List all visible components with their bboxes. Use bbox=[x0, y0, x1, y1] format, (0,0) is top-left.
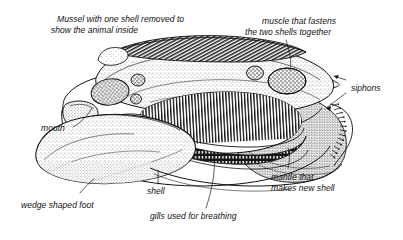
label-muscle-line-2: the two shells together bbox=[245, 27, 332, 37]
mussel-anatomy-figure: Mussel with one shell removed to show th… bbox=[0, 0, 403, 240]
label-mantle-line-2: makes new shell bbox=[271, 183, 336, 193]
diagram-canvas: Mussel with one shell removed to show th… bbox=[0, 0, 403, 240]
caption-line-2: show the animal inside bbox=[51, 25, 138, 35]
label-foot: wedge shaped foot bbox=[21, 200, 94, 210]
label-gills: gills used for breathing bbox=[150, 211, 237, 221]
label-muscle-line-1: muscle that fastens bbox=[262, 16, 337, 26]
label-mouth: mouth bbox=[41, 123, 65, 133]
caption-line-1: Mussel with one shell removed to bbox=[57, 14, 184, 24]
posterior-retractor-muscle bbox=[247, 66, 264, 80]
label-siphons: siphons bbox=[351, 83, 381, 93]
label-shell: shell bbox=[147, 186, 166, 196]
label-mantle-line-1: mantle that bbox=[271, 172, 314, 182]
posterior-adductor-muscle bbox=[268, 68, 306, 94]
